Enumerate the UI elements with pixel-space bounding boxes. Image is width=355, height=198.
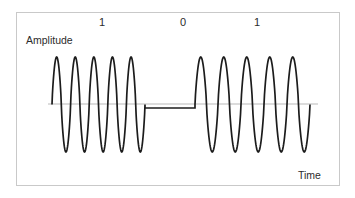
bit-label-first: 1 (99, 17, 105, 28)
bit-label-third: 1 (254, 17, 260, 28)
figure-root: 1 0 1 Amplitude Time (0, 0, 355, 198)
y-axis-label: Amplitude (26, 35, 73, 46)
x-axis-label: Time (298, 170, 321, 181)
bit-label-second: 0 (180, 17, 186, 28)
